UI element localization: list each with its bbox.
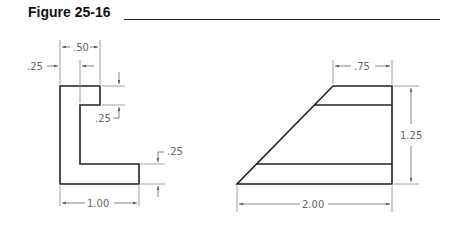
right-view: .75 1.25 2.00 (237, 60, 422, 212)
dim-overall-width: 1.00 (62, 198, 137, 209)
dim-right-height: 1.25 (400, 88, 422, 182)
dim-wall-thickness: .25 (27, 61, 94, 72)
dim-label-overall-width: 1.00 (87, 198, 109, 209)
dim-label-notch-height: .25 (95, 113, 111, 124)
left-extension-lines (60, 40, 165, 206)
dim-top-width: .50 (62, 42, 98, 53)
drawing-canvas: .50 .25 .25 .25 1.00 (0, 0, 457, 226)
dim-right-top-width: .75 (335, 61, 390, 72)
dim-label-top-width: .50 (73, 42, 89, 53)
dim-label-right-top-width: .75 (354, 61, 370, 72)
dim-label-base-thickness: .25 (167, 146, 183, 157)
dim-label-right-height: 1.25 (400, 130, 422, 141)
dim-base-thickness: .25 (158, 146, 183, 197)
dim-label-right-bottom-width: 2.00 (302, 199, 324, 210)
left-profile-outline (60, 86, 139, 184)
dim-notch-height: .25 (95, 72, 119, 124)
dim-label-wall-thickness: .25 (27, 61, 43, 72)
right-profile-outline (237, 86, 392, 184)
left-view: .50 .25 .25 .25 1.00 (27, 40, 183, 209)
dim-right-bottom-width: 2.00 (239, 199, 390, 210)
